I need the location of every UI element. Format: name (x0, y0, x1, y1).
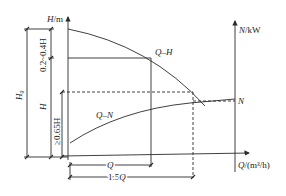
power-point-label: N (237, 96, 245, 106)
dim-h0-label: H₀ (14, 90, 24, 101)
head-axis-label: H/m (46, 14, 63, 24)
dim-15q-label: 1.5Q (108, 172, 126, 182)
power-axis-label: N/kW (238, 25, 261, 35)
power-curve (70, 99, 235, 143)
head-curve-label: Q–H (155, 47, 173, 57)
dim-q-label: Q (107, 160, 114, 170)
head-curve (68, 29, 205, 106)
dim-upper-margin-label: 0.2~0.4H (38, 38, 48, 72)
dim-lower-margin-label: ≥0.65H (52, 117, 62, 145)
power-curve-label: Q–N (96, 110, 114, 120)
flow-axis (62, 153, 249, 156)
dim-h-label: H (38, 103, 48, 111)
flow-axis-label: Q/(m³/h) (238, 160, 270, 170)
pump-characteristic-diagram: H/m N/kW Q/(m³/h) Q–H Q–N N Q 1.5Q H₀ H … (0, 0, 286, 196)
